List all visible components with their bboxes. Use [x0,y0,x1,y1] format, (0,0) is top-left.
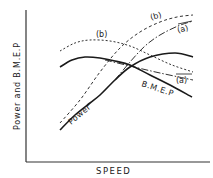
label-b-bmep: (b) [96,30,107,39]
label-b-power: (b) [149,10,162,22]
label-bmep: B.M.E.P [140,79,175,98]
label-a-power: (a) [176,23,189,35]
bmep-b-dashed-curve [60,40,193,72]
y-axis-label: Power and B.M.E.P [13,42,22,130]
label-a-bmep: (a) [176,76,187,85]
label-power: Power [67,102,93,126]
x-axis-label: SPEED [96,166,131,176]
chart-svg: (b) (b) (a) (a) B.M.E.P Power Power and … [0,0,213,178]
power-bmep-chart: (b) (b) (a) (a) B.M.E.P Power Power and … [0,0,213,178]
